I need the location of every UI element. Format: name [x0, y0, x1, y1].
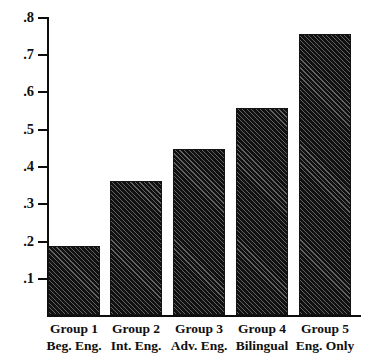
y-axis-tick-label: .1	[4, 271, 34, 286]
x-axis-label-group-4: Group 4 Bilingual	[226, 320, 298, 354]
bar-group-1	[48, 246, 100, 315]
y-axis-tick-label: .5	[4, 122, 34, 137]
y-axis-tick-label: .7	[4, 47, 34, 62]
y-axis-tick-mark	[38, 203, 48, 205]
y-axis-tick-mark	[38, 166, 48, 168]
x-axis-label-line1: Group 3	[175, 321, 223, 336]
x-axis-line	[47, 315, 361, 317]
y-axis-tick-label: .2	[4, 234, 34, 249]
y-axis-tick-mark	[38, 278, 48, 280]
y-axis-tick-label: .3	[4, 196, 34, 211]
y-axis-tick-mark	[38, 129, 48, 131]
x-axis-labels: Group 1 Beg. Eng. Group 2 Int. Eng. Grou…	[48, 320, 361, 360]
x-axis-label-group-2: Group 2 Int. Eng.	[100, 320, 172, 354]
bar-group-5	[299, 34, 351, 315]
x-axis-label-line2: Adv. Eng.	[163, 337, 235, 354]
x-axis-label-line1: Group 1	[50, 321, 98, 336]
x-axis-label-line2: Bilingual	[226, 337, 298, 354]
plot-area	[48, 17, 361, 315]
y-axis-tick-mark	[38, 241, 48, 243]
x-axis-label-line1: Group 2	[112, 321, 160, 336]
x-axis-label-line2: Eng. Only	[289, 337, 361, 354]
y-axis-tick-label: .4	[4, 159, 34, 174]
y-axis-tick-label: .6	[4, 84, 34, 99]
y-axis-tick-label: .8	[4, 10, 34, 25]
y-axis-tick-mark	[38, 17, 48, 19]
y-axis-tick-mark	[38, 91, 48, 93]
x-axis-label-line2: Int. Eng.	[100, 337, 172, 354]
x-axis-label-group-3: Group 3 Adv. Eng.	[163, 320, 235, 354]
bar-chart: .8 .7 .6 .5 .4 .3 .2 .1 Group 1 Beg. Eng…	[0, 0, 371, 361]
bar-group-3	[173, 149, 225, 315]
bar-group-2	[110, 181, 162, 315]
x-axis-label-line1: Group 4	[238, 321, 286, 336]
x-axis-label-group-5: Group 5 Eng. Only	[289, 320, 361, 354]
bar-group-4	[236, 108, 288, 315]
y-axis-tick-mark	[38, 54, 48, 56]
x-axis-label-line1: Group 5	[301, 321, 349, 336]
